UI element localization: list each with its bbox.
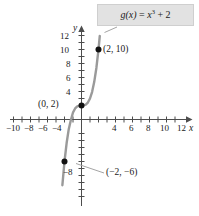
y-tick-label-8: 8 — [66, 60, 71, 69]
point-0-2-label: (0, 2) — [38, 100, 59, 110]
graph-figure: g(x) = x3 + 2 12 10 8 6 4 −8 −10 −8 −6 −… — [0, 0, 199, 216]
y-axis — [78, 26, 84, 207]
x-tick-label-neg4: −4 — [52, 124, 62, 133]
x-axis — [10, 116, 193, 122]
equation-leader-line — [105, 27, 118, 33]
y-tick-label-6: 6 — [66, 74, 71, 83]
x-tick-label-neg6: −6 — [38, 124, 48, 133]
y-tick-label-neg8: −8 — [63, 168, 73, 177]
y-axis-label: y — [73, 24, 77, 34]
x-tick-label-12: 12 — [177, 124, 186, 133]
x-tick-label-4: 4 — [112, 124, 117, 133]
point-neg2-neg6-label: (−2, −6) — [106, 168, 137, 178]
x-tick-label-neg8: −8 — [24, 124, 34, 133]
point-2-10-marker — [96, 47, 102, 53]
x-tick-label-neg10: −10 — [6, 124, 20, 133]
x-tick-label-6: 6 — [129, 124, 134, 133]
equation-text: g(x) = x3 + 2 — [120, 10, 170, 20]
x-tick-label-8: 8 — [146, 124, 151, 133]
y-tick-label-4: 4 — [66, 88, 71, 97]
y-tick-label-12: 12 — [60, 32, 69, 41]
x-axis-label: x — [189, 124, 193, 134]
point-neg2-neg6-marker — [62, 159, 68, 165]
y-tick-label-10: 10 — [60, 46, 69, 55]
plot-canvas — [0, 0, 199, 216]
point-0-2-marker — [79, 103, 85, 109]
point-2-10-label: (2, 10) — [103, 45, 128, 55]
equation-callout-box: g(x) = x3 + 2 — [97, 4, 194, 26]
x-tick-label-10: 10 — [160, 124, 169, 133]
